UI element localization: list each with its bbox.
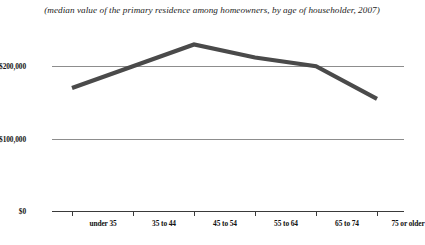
x-tick-label-65-to-74: 65 to 74 xyxy=(335,219,359,228)
chart-subtitle: (median value of the primary residence a… xyxy=(0,5,424,15)
data-line-median-home-value xyxy=(72,44,377,98)
y-tick-label-0: $0 xyxy=(19,207,26,216)
x-tick-label-75-or-older: 75 or older xyxy=(391,219,424,228)
series-line xyxy=(52,30,404,212)
x-tick-label-55-to-64: 55 to 64 xyxy=(274,219,298,228)
x-axis-label-group: under 35 35 to 44 45 to 54 55 to 64 65 t… xyxy=(52,212,404,245)
x-tick-label-45-to-54: 45 to 54 xyxy=(213,219,237,228)
x-tick-label-35-to-44: 35 to 44 xyxy=(152,219,176,228)
x-tick-label-under-35: under 35 xyxy=(89,219,116,228)
y-tick-label-100000: $100,000 xyxy=(0,135,26,144)
plot-area: $200,000 $100,000 $0 xyxy=(52,30,404,212)
y-tick-label-200000: $200,000 xyxy=(0,62,26,71)
